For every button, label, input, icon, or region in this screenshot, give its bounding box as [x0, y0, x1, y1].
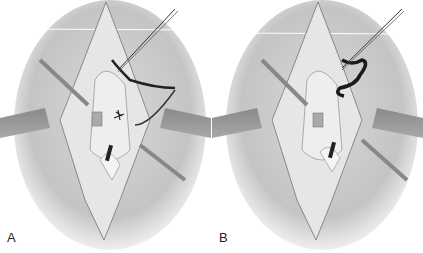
surgical-illustration-b	[212, 0, 423, 253]
panel-label-a: A	[7, 230, 16, 245]
figure-panel-a: A	[0, 0, 211, 253]
panel-label-b: B	[219, 230, 228, 245]
surgical-illustration-a	[0, 0, 211, 253]
figure-panel-b: B	[212, 0, 423, 253]
